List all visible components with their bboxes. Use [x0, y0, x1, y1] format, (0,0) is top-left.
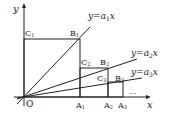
point-B3: B3 [115, 74, 124, 83]
point-C1: C1 [25, 29, 34, 38]
square-3 [108, 82, 123, 97]
point-A3: A3 [117, 101, 127, 110]
point-B1: B1 [70, 29, 79, 38]
y-axis-arrow-icon [22, 3, 26, 8]
x-axis-label: x [147, 99, 153, 110]
y-axis-label: y [12, 3, 19, 14]
point-C3: C3 [97, 74, 106, 83]
point-C2: C2 [81, 58, 90, 67]
ellipsis: ... [129, 87, 137, 96]
point-A2: A2 [103, 101, 113, 110]
point-A1: A1 [75, 101, 85, 110]
geometry-diagram: y x O y=a1x y=a2x y=a3x C1 B1 C2 B2 C3 B… [0, 0, 171, 118]
origin-label: O [26, 99, 33, 109]
line-a2-label: y=a2x [130, 48, 158, 59]
line-a1-label: y=a1x [87, 11, 115, 22]
point-B2: B2 [100, 58, 109, 67]
line-a3-label: y=a3x [130, 67, 158, 78]
